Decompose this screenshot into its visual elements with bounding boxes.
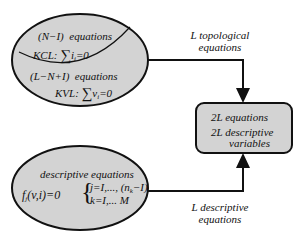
condition-j-text: j=I,..., (n	[90, 181, 130, 193]
kcl-equation-count: (N−I) equations	[38, 30, 112, 42]
kcl-label: KCL:	[33, 49, 57, 61]
bottom-arrowhead	[236, 153, 250, 168]
kcl-equations-label: equations	[69, 30, 112, 42]
kcl-formula: KCL: ∑ii=0	[33, 48, 89, 65]
top-arrow-label-line1: L topological	[175, 29, 265, 41]
kcl-count-label: (N−I)	[38, 30, 64, 42]
condition-k: k=I,... M	[90, 194, 129, 206]
kvl-equation-count: (L−N+I) equations	[30, 70, 118, 82]
bottom-arrow-label-line2: equations	[175, 213, 265, 225]
bottom-arrow-label-line1: L descriptive	[175, 201, 265, 213]
condition-j-tail: −I)	[133, 181, 148, 193]
sum-symbol: ∑	[82, 85, 93, 101]
top-arrow-label-line2: equations	[175, 41, 265, 53]
kcl-equals: =0	[76, 49, 89, 61]
bottom-arrow-label: L descriptive equations	[175, 201, 265, 225]
bottom-connector-line	[147, 166, 243, 191]
top-arrowhead	[236, 88, 250, 103]
descriptive-function: fj(v,i)=0	[22, 189, 60, 205]
kvl-label: KVL:	[55, 87, 79, 99]
result-line1: 2L equations	[211, 111, 268, 123]
result-line3: variables	[229, 137, 270, 149]
function-args: (v,i)=0	[27, 188, 60, 202]
sum-symbol: ∑	[60, 47, 71, 63]
kvl-formula: KVL: ∑vi=0	[55, 86, 112, 103]
kvl-equations-label: equations	[75, 70, 118, 82]
kvl-count-label: (L−N+I)	[30, 70, 69, 82]
kvl-equals: =0	[99, 87, 112, 99]
top-connector-line	[147, 60, 243, 90]
top-arrow-label: L topological equations	[175, 29, 265, 53]
